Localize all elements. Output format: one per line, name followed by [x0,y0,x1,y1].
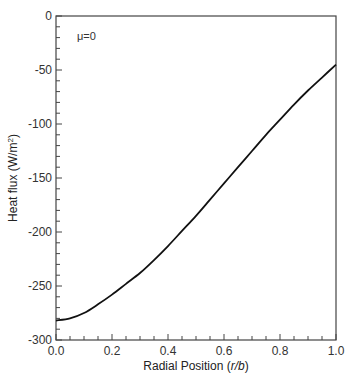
x-tick-label: 0.8 [272,344,289,358]
heat-flux-chart: 0-50-100-150-200-250-300 0.00.20.40.60.8… [0,0,356,386]
y-tick-label: 0 [45,9,52,23]
heat-flux-curve [56,65,336,321]
x-tick-label: 0.2 [104,344,121,358]
x-tick-label: 0.6 [216,344,233,358]
x-tick-label: 1.0 [328,344,345,358]
y-tick-label: -250 [28,279,52,293]
y-tick-label: -200 [28,225,52,239]
x-axis-label: Radial Position (r/b) [143,359,248,373]
y-axis-label: Heat flux (W/m2) [6,134,21,222]
x-axis-ticks: 0.00.20.40.60.81.0 [48,334,345,358]
x-tick-label: 0.0 [48,344,65,358]
plot-frame [56,16,336,340]
y-tick-label: -50 [35,63,53,77]
y-tick-label: -150 [28,171,52,185]
mu-annotation: μ=0 [77,30,96,42]
y-axis-ticks: 0-50-100-150-200-250-300 [28,9,62,347]
y-tick-label: -100 [28,117,52,131]
x-tick-label: 0.4 [160,344,177,358]
